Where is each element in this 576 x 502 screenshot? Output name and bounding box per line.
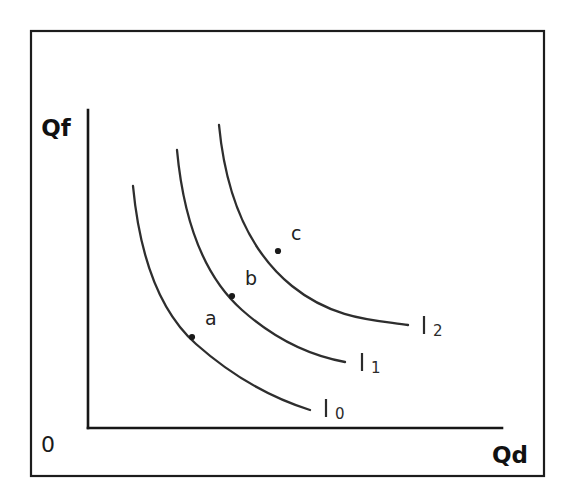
y-axis-label: Qf <box>41 115 72 141</box>
point-marker-c <box>275 248 281 254</box>
curve-i0 <box>133 186 310 410</box>
curve-label-subscript-i2: 2 <box>433 322 443 340</box>
origin-label: 0 <box>41 432 55 457</box>
curve-i2 <box>219 125 408 325</box>
indifference-curve-figure: Qf Qd 0 a b c 0 1 2 <box>0 0 576 502</box>
x-axis-label: Qd <box>492 442 528 468</box>
curve-i1 <box>177 150 345 362</box>
figure-border <box>31 31 544 476</box>
point-label-b: b <box>245 267 257 289</box>
curve-label-subscript-i0: 0 <box>335 405 345 423</box>
curve-label-subscript-i1: 1 <box>371 359 381 377</box>
point-label-a: a <box>205 307 217 329</box>
point-label-c: c <box>291 222 301 244</box>
figure-canvas: Qf Qd 0 a b c 0 1 2 <box>0 0 576 502</box>
point-marker-b <box>229 293 235 299</box>
point-marker-a <box>189 334 195 340</box>
